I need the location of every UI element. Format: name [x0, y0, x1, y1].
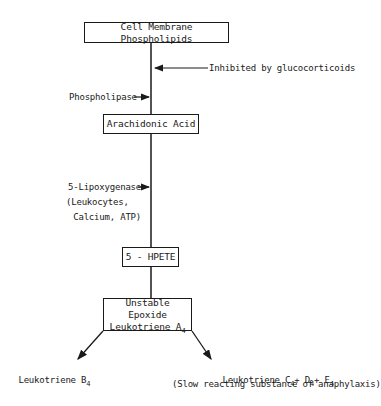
arachidonic-acid-box: Arachidonic Acid [103, 114, 199, 134]
slow-reacting-substance-label: (Slow reacting substance of anaphylaxis) [172, 378, 381, 390]
arachidonic-acid-label: Arachidonic Acid [107, 118, 195, 130]
cell-membrane-phospholipids-box: Cell Membrane Phospholipids [84, 22, 229, 43]
cell-membrane-label: Cell Membrane Phospholipids [85, 21, 228, 45]
lipoxygenase-cofactors-line1: (Leukocytes, [66, 196, 129, 208]
leukotriene-b4-label: Leukotriene B4 [8, 362, 90, 386]
inhibited-by-glucocorticoids-label: Inhibited by glucocorticoids [209, 62, 355, 74]
lipoxygenase-label: 5-Lipoxygenase [68, 181, 141, 193]
connector-lines [0, 0, 381, 406]
lta4-line1: Unstable Epoxide [104, 297, 191, 321]
lta4-line2: Leukotriene A4 [110, 321, 186, 333]
hpete-box: 5 - HPETE [122, 247, 179, 267]
leukotriene-a4-box: Unstable Epoxide Leukotriene A4 [103, 298, 192, 331]
phospholipase-label: Phospholipase [69, 91, 137, 103]
hpete-label: 5 - HPETE [126, 251, 176, 263]
lipoxygenase-cofactors-line2: Calcium, ATP) [68, 211, 141, 223]
